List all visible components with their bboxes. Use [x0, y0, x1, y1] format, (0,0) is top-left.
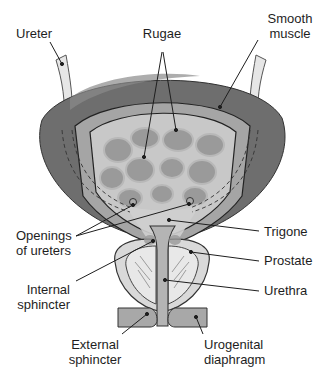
label-urethra: Urethra [264, 284, 307, 299]
label-trigone: Trigone [264, 225, 308, 240]
label-prostate: Prostate [264, 254, 312, 269]
label-urogenital-diaphragm: Urogenital diaphragm [204, 338, 265, 367]
label-ureter: Ureter [16, 27, 52, 42]
urogenital-diaphragm-left [118, 308, 157, 327]
label-smooth-muscle: Smooth muscle [260, 12, 320, 41]
label-rugae: Rugae [140, 27, 184, 42]
urogenital-diaphragm-right [168, 308, 207, 327]
bladder-illustration [0, 0, 325, 377]
label-internal-sphincter: Internal sphincter [12, 283, 70, 312]
label-external-sphincter: External sphincter [66, 338, 124, 367]
label-openings-of-ureters: Openings of ureters [16, 229, 72, 258]
